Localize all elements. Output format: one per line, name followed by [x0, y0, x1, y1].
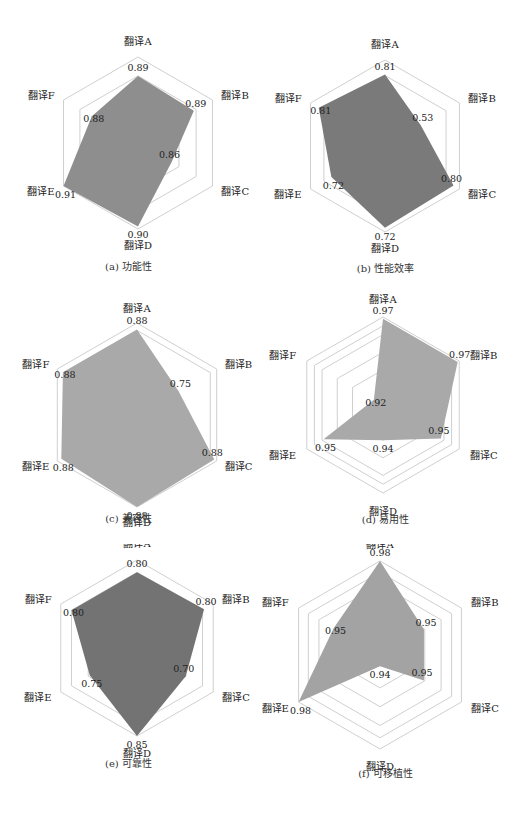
- axis-label: 翻译A: [124, 36, 152, 47]
- axis-label: 翻译C: [468, 189, 496, 200]
- value-label: 0.97: [372, 305, 393, 316]
- value-label: 0.80: [126, 558, 147, 569]
- axis-label: 翻译E: [22, 461, 49, 472]
- axis-label: 翻译F: [275, 93, 302, 104]
- value-label: 0.80: [63, 607, 84, 618]
- data-area: [319, 75, 454, 228]
- value-label: 0.98: [290, 705, 311, 716]
- value-label: 0.97: [449, 349, 470, 360]
- axis-label: 翻译C: [222, 692, 250, 703]
- value-label: 0.88: [54, 369, 75, 380]
- axis-label: 翻译B: [222, 594, 249, 605]
- axis-label: 翻译D: [124, 240, 152, 251]
- radar-svg: 0.880.750.880.880.880.88翻译A翻译B翻译C翻译D翻译E翻…: [0, 272, 257, 544]
- radar-svg: 0.970.970.950.940.950.92翻译A翻译B翻译C翻译D翻译E翻…: [257, 272, 514, 544]
- value-label: 0.89: [185, 98, 206, 109]
- value-label: 0.92: [365, 397, 386, 408]
- radar-chart-portability: 0.980.950.950.940.980.95翻译A翻译B翻译C翻译D翻译E翻…: [257, 544, 514, 816]
- value-label: 0.89: [127, 62, 148, 73]
- axis-label: 翻译B: [470, 350, 497, 361]
- radar-svg: 0.890.890.860.900.910.88翻译A翻译B翻译C翻译D翻译E翻…: [0, 0, 257, 272]
- axis-label: 翻译B: [225, 359, 252, 370]
- axis-label: 翻译E: [274, 189, 301, 200]
- axis-label: 翻译C: [471, 703, 499, 714]
- axis-label: 翻译D: [371, 243, 399, 254]
- axis-label: 翻译A: [366, 544, 394, 550]
- axis-label: 翻译E: [27, 186, 54, 197]
- value-label: 0.81: [374, 61, 395, 72]
- value-label: 0.70: [173, 663, 194, 674]
- value-label: 0.88: [126, 315, 147, 326]
- chart-caption: (f) 可移植性: [257, 765, 514, 780]
- axis-label: 翻译F: [269, 350, 296, 361]
- value-label: 0.80: [195, 596, 216, 607]
- data-area: [324, 319, 458, 440]
- value-label: 0.72: [374, 231, 395, 242]
- value-label: 0.80: [441, 173, 462, 184]
- axis-label: 翻译F: [262, 597, 289, 608]
- axis-label: 翻译A: [123, 544, 151, 549]
- value-label: 0.90: [127, 229, 148, 240]
- value-label: 0.95: [325, 625, 346, 636]
- value-label: 0.94: [369, 669, 390, 680]
- chart-caption: (a) 功能性: [0, 258, 257, 273]
- radar-chart-functionality: 0.890.890.860.900.910.88翻译A翻译B翻译C翻译D翻译E翻…: [0, 0, 257, 272]
- radar-svg: 0.810.530.800.720.720.81翻译A翻译B翻译C翻译D翻译E翻…: [257, 0, 514, 272]
- radar-chart-reliability: 0.800.800.700.850.750.80翻译A翻译B翻译C翻译D翻译E翻…: [0, 544, 257, 816]
- axis-label: 翻译B: [468, 93, 495, 104]
- value-label: 0.75: [170, 378, 191, 389]
- axis-label: 翻译E: [269, 450, 296, 461]
- value-label: 0.81: [310, 105, 331, 116]
- value-label: 0.95: [411, 667, 432, 678]
- axis-label: 翻译A: [371, 39, 399, 50]
- radar-chart-usability: 0.970.970.950.940.950.92翻译A翻译B翻译C翻译D翻译E翻…: [257, 272, 514, 544]
- data-area: [71, 572, 204, 736]
- value-label: 0.95: [428, 425, 449, 436]
- axis-label: 翻译C: [221, 186, 249, 197]
- axis-label: 翻译E: [262, 703, 289, 714]
- axis-label: 翻译C: [470, 450, 498, 461]
- value-label: 0.53: [412, 112, 433, 123]
- axis-label: 翻译F: [28, 90, 55, 101]
- radar-svg: 0.800.800.700.850.750.80翻译A翻译B翻译C翻译D翻译E翻…: [0, 544, 257, 816]
- value-label: 0.95: [415, 617, 436, 628]
- axis-label: 翻译A: [123, 303, 151, 314]
- value-label: 0.72: [323, 180, 344, 191]
- value-label: 0.88: [202, 447, 223, 458]
- chart-caption: (e) 可靠性: [0, 755, 257, 770]
- value-label: 0.95: [315, 442, 336, 453]
- value-label: 0.75: [81, 678, 102, 689]
- value-label: 0.88: [53, 462, 74, 473]
- axis-label: 翻译B: [471, 597, 498, 608]
- value-label: 0.91: [55, 189, 76, 200]
- axis-label: 翻译C: [225, 461, 253, 472]
- axis-label: 翻译A: [369, 294, 397, 305]
- axis-label: 翻译F: [22, 359, 49, 370]
- radar-chart-compatibility: 0.880.750.880.880.880.88翻译A翻译B翻译C翻译D翻译E翻…: [0, 272, 257, 544]
- value-label: 0.86: [159, 149, 180, 160]
- data-area: [299, 561, 424, 702]
- chart-caption: (c) 兼容性: [0, 510, 257, 525]
- data-area: [61, 329, 214, 507]
- value-label: 0.94: [372, 443, 393, 454]
- axis-label: 翻译E: [24, 692, 51, 703]
- axis-label: 翻译B: [221, 90, 248, 101]
- axis-label: 翻译F: [25, 594, 52, 605]
- radar-chart-performance-efficiency: 0.810.530.800.720.720.81翻译A翻译B翻译C翻译D翻译E翻…: [257, 0, 514, 272]
- chart-caption: (d) 易用性: [257, 511, 514, 526]
- value-label: 0.88: [83, 113, 104, 124]
